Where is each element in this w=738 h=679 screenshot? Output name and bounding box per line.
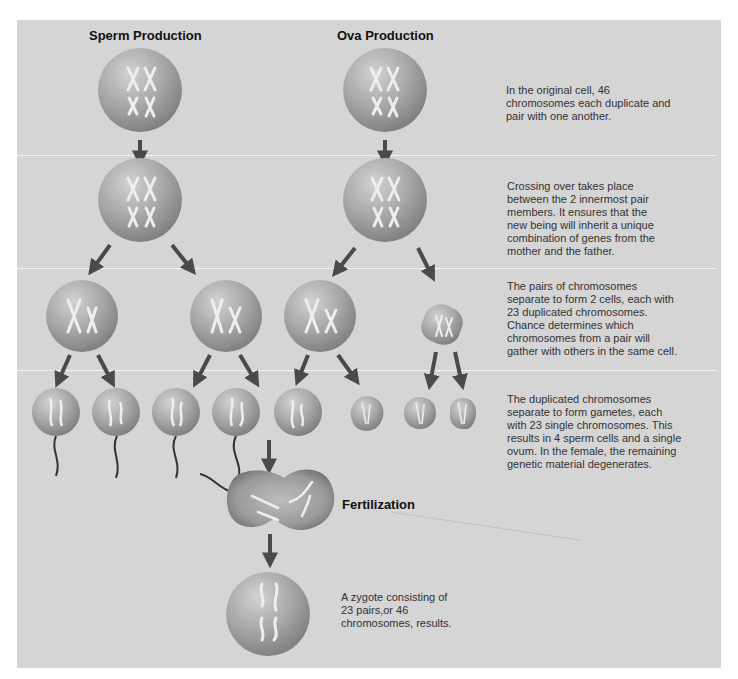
polar-body-3 [450, 398, 476, 429]
step-4-description: The duplicated chromosomes separate to f… [507, 393, 682, 471]
fertilization-heading: Fertilization [342, 497, 415, 512]
ova-production-heading: Ova Production [337, 28, 434, 43]
sperm-cell-1 [32, 388, 80, 476]
polar-body-2 [404, 397, 436, 429]
arrow-icon [140, 140, 385, 160]
fertilization-cell [200, 469, 334, 530]
step-1-description: In the original cell, 46 chromosomes eac… [506, 84, 676, 123]
ova-secondary-oocyte [284, 280, 356, 352]
zygote-cell [226, 572, 310, 656]
sperm-production-heading: Sperm Production [89, 28, 202, 43]
polar-body-1 [351, 396, 384, 431]
ova-polar-body [421, 304, 463, 344]
sperm-crossing-over-cell [98, 158, 182, 242]
step-3-description: The pairs of chromosomes separate to for… [507, 280, 682, 358]
ova-original-cell [343, 48, 427, 132]
arrow-icon [92, 245, 432, 276]
ova-crossing-over-cell [343, 158, 427, 242]
fertilization-pointer-line [390, 512, 580, 540]
arrow-icon [58, 352, 462, 384]
sperm-cell-2 [92, 388, 140, 478]
step-2-description: Crossing over takes place between the 2 … [507, 180, 667, 258]
sperm-secondary-cell-1 [46, 280, 118, 352]
sperm-secondary-cell-2 [190, 280, 262, 352]
sperm-cell-3 [152, 388, 200, 478]
sperm-original-cell [98, 48, 182, 132]
ovum-cell [274, 388, 322, 436]
zygote-description: A zygote consisting of 23 pairs,or 46 ch… [341, 591, 461, 630]
sperm-cell-4 [212, 388, 260, 480]
